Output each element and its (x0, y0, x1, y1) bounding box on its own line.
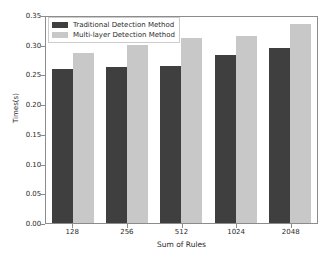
y-axis-tick-label: 0.30 (0, 42, 41, 50)
x-axis-tick-label: 2048 (264, 228, 318, 236)
legend-swatch-icon (52, 22, 68, 28)
bar-group (215, 17, 257, 223)
bar (269, 48, 290, 223)
y-axis-tick-mark (41, 165, 45, 166)
bar (52, 69, 73, 223)
y-axis-tick-mark (41, 105, 45, 106)
bar (127, 45, 148, 223)
bar (215, 55, 236, 223)
legend-item: Traditional Detection Method (52, 20, 175, 30)
plot-area (45, 16, 318, 224)
legend-item-label: Multi-layer Detection Method (73, 31, 175, 39)
x-axis-tick-label: 1024 (209, 228, 263, 236)
bar-group (52, 17, 94, 223)
x-axis-tick-mark (72, 224, 73, 228)
bar-group (160, 17, 202, 223)
legend-item-label: Traditional Detection Method (73, 21, 174, 29)
legend-item: Multi-layer Detection Method (52, 30, 175, 40)
bar (290, 24, 311, 223)
x-axis-label: Sum of Rules (45, 240, 318, 249)
bar (73, 53, 94, 223)
y-axis-tick-mark (41, 46, 45, 47)
x-axis-tick-mark (291, 224, 292, 228)
bar-groups (46, 17, 317, 223)
y-axis-tick-label: 0.35 (0, 12, 41, 20)
x-axis-tick-mark (236, 224, 237, 228)
y-axis-tick-label: 0.25 (0, 71, 41, 79)
bar-chart-figure: Times(s) Sum of Rules Traditional Detect… (0, 0, 328, 256)
y-axis-tick-label: 0.05 (0, 190, 41, 198)
y-axis-tick-mark (41, 16, 45, 17)
x-axis-tick-label: 128 (45, 228, 99, 236)
x-axis-tick-label: 256 (100, 228, 154, 236)
x-axis-tick-label: 512 (155, 228, 209, 236)
y-axis-tick-mark (41, 224, 45, 225)
bar (106, 67, 127, 223)
y-axis-tick-label: 0.00 (0, 220, 41, 228)
y-axis-tick-label: 0.10 (0, 161, 41, 169)
y-axis-tick-mark (41, 194, 45, 195)
bar (181, 38, 202, 223)
y-axis-tick-mark (41, 135, 45, 136)
bar-group (106, 17, 148, 223)
x-axis-tick-mark (182, 224, 183, 228)
bar-group (269, 17, 311, 223)
legend-swatch-icon (52, 32, 68, 38)
bar (236, 36, 257, 223)
legend: Traditional Detection MethodMulti-layer … (48, 17, 180, 43)
y-axis-tick-label: 0.15 (0, 131, 41, 139)
y-axis-tick-label: 0.20 (0, 101, 41, 109)
bar (160, 66, 181, 223)
y-axis-tick-mark (41, 75, 45, 76)
x-axis-tick-mark (127, 224, 128, 228)
